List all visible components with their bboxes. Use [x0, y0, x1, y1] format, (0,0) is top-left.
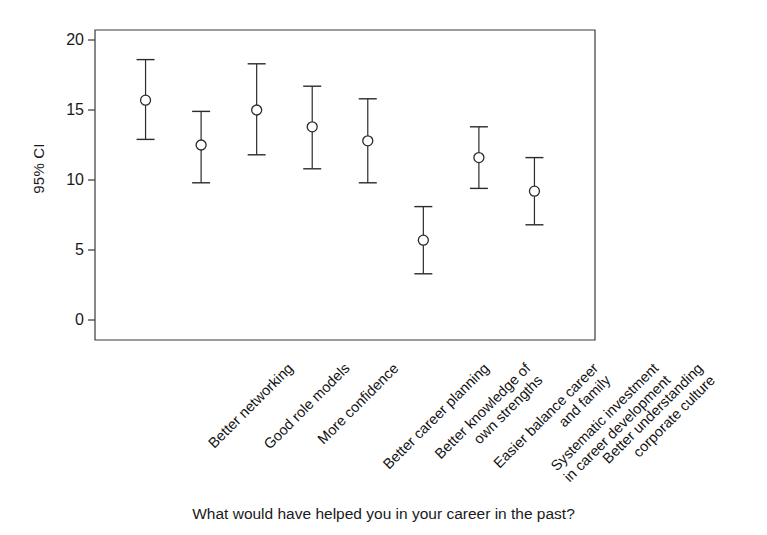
data-point-marker — [474, 153, 484, 163]
error-bar-point — [525, 158, 543, 225]
y-axis-ticks — [88, 40, 95, 320]
error-bar-point — [359, 99, 377, 183]
plot-area — [0, 0, 767, 535]
data-point-marker — [141, 95, 151, 105]
y-tick-label: 10 — [46, 172, 84, 188]
confidence-interval-chart: 95% CI 05101520 Better networkingGood ro… — [0, 0, 767, 535]
error-bar-point — [248, 64, 266, 155]
plot-border — [95, 30, 595, 340]
error-bar-point — [470, 127, 488, 189]
error-bar-point — [192, 111, 210, 182]
data-point-marker — [529, 186, 539, 196]
y-axis-title: 95% CI — [30, 99, 47, 239]
y-tick-label: 5 — [46, 242, 84, 258]
x-axis-title: What would have helped you in your caree… — [0, 505, 767, 523]
y-tick-label: 15 — [46, 102, 84, 118]
data-point-marker — [363, 136, 373, 146]
data-point-marker — [252, 105, 262, 115]
axis-frame — [95, 30, 595, 340]
data-point-marker — [307, 122, 317, 132]
error-bar-point — [137, 60, 155, 140]
error-bar-series — [137, 60, 544, 274]
data-point-marker — [196, 140, 206, 150]
data-point-marker — [418, 235, 428, 245]
y-tick-label: 20 — [46, 32, 84, 48]
error-bar-point — [414, 207, 432, 274]
error-bar-point — [303, 86, 321, 169]
y-tick-label: 0 — [46, 312, 84, 328]
